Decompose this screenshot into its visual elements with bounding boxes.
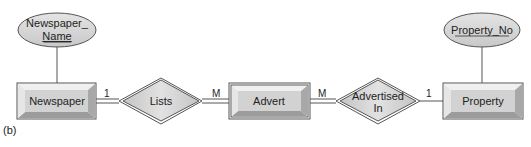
cardinality-advert-advertised: M [318,88,326,99]
attribute-label-line2: Name [42,30,71,42]
relationship-label-line2: In [373,102,382,114]
entity-newspaper: Newspaper [17,83,96,119]
relationship-label: Lists [150,95,173,107]
cardinality-advertised-property: 1 [426,88,432,99]
cardinality-newspaper-lists: 1 [104,88,110,99]
attribute-property-no: Property_No [444,13,520,47]
entity-advert: Advert [229,83,310,119]
entity-label: Newspaper [29,95,85,107]
cardinality-lists-advert: M [212,88,220,99]
er-diagram: Newspaper_ Name Property_No Newspaper Ad… [0,0,531,147]
entity-property: Property [443,83,523,119]
attribute-newspaper-name: Newspaper_ Name [18,13,96,47]
attribute-label-line1: Newspaper_ [26,17,89,29]
entity-label: Property [462,95,504,107]
entity-label: Advert [253,95,285,107]
relationship-advertised-in: Advertised In [336,78,420,124]
attribute-label: Property_No [451,24,513,36]
relationship-lists: Lists [119,78,202,124]
figure-label: (b) [3,124,16,136]
relationship-label-line1: Advertised [352,90,404,102]
